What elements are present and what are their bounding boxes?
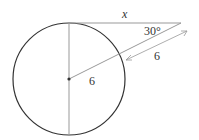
label-tangent-x: x [121,7,128,21]
geometry-diagram: x 30° 6 6 [0,0,199,140]
center-point [67,77,70,80]
label-angle: 30° [144,24,161,38]
secant-line [69,23,181,79]
label-external-segment: 6 [154,49,160,63]
label-radius: 6 [89,74,95,88]
